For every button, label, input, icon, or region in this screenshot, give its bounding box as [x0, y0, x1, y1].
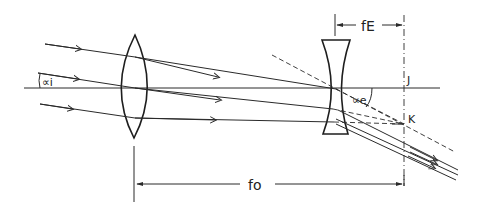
point-j-label: J — [406, 74, 410, 87]
point-k-label: K — [408, 113, 416, 126]
alpha-i-arc — [39, 74, 40, 88]
fo-dimension — [134, 146, 404, 202]
fo-label: fo — [248, 177, 262, 193]
telescope-ray-diagram: ∝i ∝e J K fE fo — [0, 0, 478, 204]
alpha-i-label: ∝i — [42, 76, 53, 89]
fe-label: fE — [361, 18, 375, 34]
alpha-e-label: ∝e — [352, 94, 367, 107]
alpha-e-arc — [366, 88, 372, 107]
intermediate-rays — [135, 57, 336, 122]
